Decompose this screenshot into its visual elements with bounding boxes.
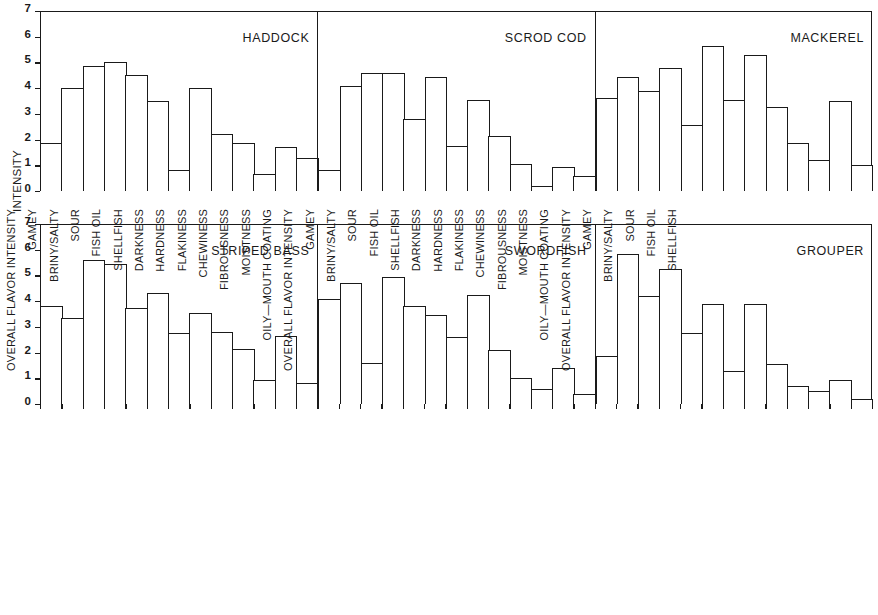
x-tick-label: SHELLFISH — [113, 209, 124, 409]
chart-page: INTENSITY 01234567 HADDOCKSCROD CODMACKE… — [0, 0, 878, 615]
x-axis-labels: DARKNESSHARDNESSFLAKINESSCHEWINESSFIBROU… — [40, 409, 872, 609]
x-tick-label: CHEWINESS — [198, 209, 209, 409]
bar — [723, 100, 746, 191]
x-tick-label: HARDNESS — [433, 209, 444, 409]
x-tick-label: GAMEY — [582, 209, 593, 409]
x-tick-label: FIBROUSNESS — [497, 209, 508, 409]
x-tick-label: FLAKINESS — [454, 209, 465, 409]
x-tick-label: CHEWINESS — [475, 209, 486, 409]
x-tick-label: OVERALL FLAVOR INTENSITY — [283, 209, 294, 409]
x-tick-label: OVERALL FLAVOR INTENSITY — [561, 209, 572, 409]
panel-grouper: GROUPER — [595, 224, 872, 404]
x-tick-label: OILY—MOUTH COATING — [262, 209, 273, 409]
panel-haddock: HADDOCK — [40, 11, 317, 191]
bar — [488, 136, 511, 191]
bar — [808, 391, 831, 404]
bar — [851, 165, 874, 191]
panel-mackerel: MACKEREL — [595, 11, 872, 191]
bar — [104, 62, 127, 191]
panel-title: MACKEREL — [790, 31, 864, 45]
bar — [723, 371, 746, 404]
x-tick-label: BRINY/SALTY — [49, 209, 60, 409]
bar — [808, 160, 831, 191]
y-tick-label: 4 — [11, 80, 31, 92]
x-tick-label: GAMEY — [305, 209, 316, 409]
x-tick-label: FISH OIL — [91, 209, 102, 409]
x-tick-label: BRINY/SALTY — [326, 209, 337, 409]
panel-scrod-cod: SCROD COD — [317, 11, 594, 191]
bar — [40, 143, 63, 191]
bar — [659, 68, 682, 191]
bar — [681, 125, 704, 191]
bar — [787, 143, 810, 191]
bar — [638, 91, 661, 191]
bar — [766, 364, 789, 404]
panel-title: SCROD COD — [505, 31, 587, 45]
bar — [382, 73, 405, 191]
bar — [253, 174, 276, 191]
bar — [403, 119, 426, 191]
bar — [766, 107, 789, 191]
bar — [425, 77, 448, 191]
x-tick-label: MOISTNESS — [241, 209, 252, 409]
x-tick-label: DARKNESS — [134, 209, 145, 409]
bar — [125, 75, 148, 191]
y-tick-label: 6 — [11, 29, 31, 41]
bar — [681, 333, 704, 404]
bar — [446, 146, 469, 191]
x-tick-label: SHELLFISH — [667, 209, 678, 409]
bar — [83, 66, 106, 191]
x-tick-label: OVERALL FLAVOR INTENSITY — [6, 209, 17, 409]
bar — [318, 170, 341, 191]
x-tick-label: SOUR — [347, 209, 358, 409]
bar — [296, 158, 319, 191]
y-tick-label: 5 — [11, 54, 31, 66]
x-tick-label: FIBROUSNESS — [219, 209, 230, 409]
bar — [744, 304, 767, 404]
x-tick-label: HARDNESS — [155, 209, 166, 409]
bar — [168, 170, 191, 191]
bar — [573, 176, 596, 191]
bar — [787, 386, 810, 404]
x-tick-label: DARKNESS — [411, 209, 422, 409]
bar — [531, 186, 554, 191]
x-tick — [872, 404, 873, 409]
chart-row-top: 01234567 HADDOCKSCROD CODMACKEREL — [40, 11, 872, 191]
x-tick-label: MOISTNESS — [518, 209, 529, 409]
x-tick-label: SOUR — [70, 209, 81, 409]
y-tick-label: 0 — [11, 183, 31, 195]
x-tick-label: FISH OIL — [369, 209, 380, 409]
bar — [510, 164, 533, 191]
bar — [552, 167, 575, 191]
y-tick: 0 — [35, 191, 40, 192]
x-tick-label: FLAKINESS — [177, 209, 188, 409]
x-tick-label: SOUR — [625, 209, 636, 409]
panel-title: GROUPER — [797, 244, 864, 258]
y-tick-label: 2 — [11, 132, 31, 144]
bar — [702, 46, 725, 191]
bar — [275, 147, 298, 191]
y-tick-label: 3 — [11, 106, 31, 118]
bar — [829, 380, 852, 404]
bar — [189, 88, 212, 191]
panel-title: HADDOCK — [243, 31, 310, 45]
x-tick-label: FISH OIL — [646, 209, 657, 409]
bar — [617, 77, 640, 191]
bar — [61, 88, 84, 191]
bar — [829, 101, 852, 191]
bar — [702, 304, 725, 404]
bar — [361, 73, 384, 191]
bar — [211, 134, 234, 191]
bar — [147, 101, 170, 191]
x-tick-label: SHELLFISH — [390, 209, 401, 409]
bar — [467, 100, 490, 191]
bar — [596, 98, 619, 191]
bar — [744, 55, 767, 191]
bar — [232, 143, 255, 191]
x-tick-label: BRINY/SALTY — [603, 209, 614, 409]
y-tick-label: 7 — [11, 3, 31, 15]
y-tick-label: 1 — [11, 157, 31, 169]
bar — [340, 86, 363, 191]
x-tick-label: GAMEY — [27, 209, 38, 409]
x-tick-label: OILY—MOUTH COATING — [539, 209, 550, 409]
